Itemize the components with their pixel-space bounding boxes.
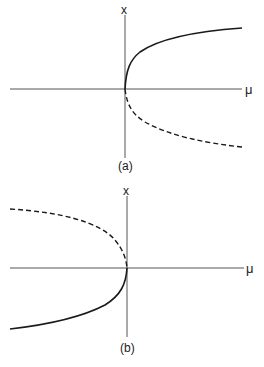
- panel-b-caption: (b): [120, 341, 135, 355]
- panel-b-x-label: μ: [246, 261, 254, 276]
- panel-b-y-label: x: [123, 184, 129, 198]
- panel-a-y-label: x: [121, 3, 127, 17]
- panel-b-solid-branch: [10, 268, 127, 329]
- panel-b: x μ (b): [10, 184, 254, 355]
- bifurcation-diagram: x μ (a) x μ (b): [0, 0, 264, 367]
- panel-a-caption: (a): [118, 159, 133, 173]
- panel-b-dashed-branch: [10, 209, 127, 268]
- panel-a: x μ (a): [10, 3, 253, 173]
- panel-a-x-label: μ: [245, 82, 253, 97]
- panel-a-solid-branch: [125, 28, 242, 89]
- panel-a-dashed-branch: [125, 89, 242, 147]
